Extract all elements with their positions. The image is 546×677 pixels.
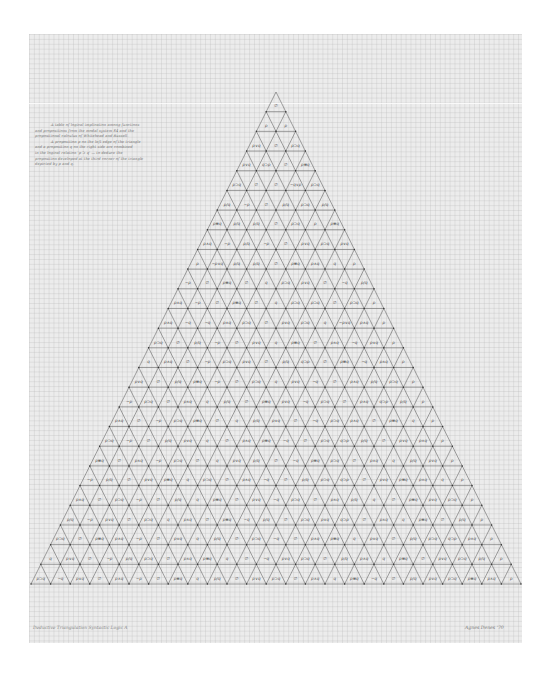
lattice-vertex <box>265 583 267 585</box>
lattice-vertex <box>461 583 463 585</box>
lattice-vertex <box>334 445 336 447</box>
cell-label: p≡q <box>231 300 241 305</box>
cell-label: p⊃q <box>329 458 339 463</box>
cell-label: p/q <box>409 576 417 581</box>
cell-label: ∅ <box>392 576 396 581</box>
cell-label: ∅ <box>127 517 131 522</box>
lattice-vertex <box>265 111 267 113</box>
cell-label: p <box>372 300 376 305</box>
lattice-vertex <box>461 465 463 467</box>
lattice-vertex <box>363 268 365 270</box>
cell-label: p∧q <box>241 477 251 482</box>
lattice-vertex <box>275 249 277 251</box>
lattice-vertex <box>354 485 356 487</box>
lattice-vertex <box>216 485 218 487</box>
cell-label: q⊃p <box>301 359 310 364</box>
cell-label: p/q <box>282 359 290 364</box>
cell-label: p≡q <box>300 162 310 167</box>
cell-label: p∧q <box>359 320 369 325</box>
cell-label: p∨q <box>320 517 330 522</box>
lattice-vertex <box>177 288 179 290</box>
lattice-vertex <box>314 485 316 487</box>
lattice-vertex <box>109 426 111 428</box>
lattice-vertex <box>383 544 385 546</box>
cell-label: p∨q <box>369 340 379 345</box>
cell-label: p⊃q <box>290 300 300 305</box>
lattice-vertex <box>452 564 454 566</box>
cell-label: ∅ <box>255 182 259 187</box>
lattice-vertex <box>285 583 287 585</box>
lattice-vertex <box>334 327 336 329</box>
cell-label: p/q <box>223 202 231 207</box>
lattice-line <box>139 368 247 584</box>
lattice-vertex <box>393 327 395 329</box>
lattice-vertex <box>118 564 120 566</box>
lattice-vertex <box>344 229 346 231</box>
lattice-vertex <box>99 445 101 447</box>
cell-label: ~q <box>263 477 269 482</box>
cell-label: ∅ <box>294 418 298 423</box>
lattice-vertex <box>305 308 307 310</box>
cell-label: p/q <box>252 458 260 463</box>
cell-label: ~q <box>204 320 210 325</box>
lattice-vertex <box>79 564 81 566</box>
lattice-vertex <box>207 386 209 388</box>
lattice-vertex <box>236 406 238 408</box>
lattice-vertex <box>314 288 316 290</box>
lattice-vertex <box>226 583 228 585</box>
cell-label: p/q <box>252 261 260 266</box>
cell-label: p∨q <box>251 143 261 148</box>
lattice-vertex <box>383 426 385 428</box>
lattice-vertex <box>393 485 395 487</box>
cell-label: p∧q <box>369 458 379 463</box>
cell-label: ~p <box>224 241 230 246</box>
lattice-vertex <box>344 308 346 310</box>
lattice-vertex <box>422 426 424 428</box>
cell-label: ∅ <box>304 438 308 443</box>
lattice-line <box>217 210 403 584</box>
lattice-vertex <box>246 583 248 585</box>
lattice-vertex <box>314 406 316 408</box>
cell-label: p <box>421 399 425 404</box>
lattice-vertex <box>167 544 169 546</box>
lattice-vertex <box>354 367 356 369</box>
cell-label: p/q <box>301 477 309 482</box>
cell-label: ∅ <box>323 556 327 561</box>
lattice-vertex <box>501 544 503 546</box>
cell-label: ∅ <box>235 536 239 541</box>
lattice-vertex <box>187 386 189 388</box>
cell-label: p≡q <box>467 576 477 581</box>
cell-label: ∅ <box>166 399 170 404</box>
lattice-vertex <box>481 544 483 546</box>
cell-label: ∅ <box>215 418 219 423</box>
lattice-vertex <box>373 406 375 408</box>
lattice-vertex <box>216 288 218 290</box>
lattice-vertex <box>256 327 258 329</box>
cell-label: ∅ <box>264 202 268 207</box>
cell-label: p/q <box>399 399 407 404</box>
cell-label: p⊃q <box>202 477 212 482</box>
cell-label: p/q <box>350 497 358 502</box>
cell-label: ∅ <box>186 359 190 364</box>
lattice-vertex <box>363 583 365 585</box>
lattice-vertex <box>246 465 248 467</box>
cell-label: q <box>333 261 336 266</box>
cell-label: p∧q <box>202 241 212 246</box>
lattice-vertex <box>393 406 395 408</box>
cell-label: p⊃q <box>104 438 114 443</box>
lattice-vertex <box>412 485 414 487</box>
cell-label: p∧q <box>349 379 359 384</box>
cell-label: ∅ <box>225 477 229 482</box>
cell-label: ∅ <box>206 280 210 285</box>
cell-label: ∅ <box>176 340 180 345</box>
cell-label: ~q <box>263 556 269 561</box>
cell-label: p⊃q <box>173 418 183 423</box>
cell-label: ~q <box>361 359 367 364</box>
cell-label: q <box>235 418 238 423</box>
lattice-vertex <box>50 583 52 585</box>
lattice-vertex <box>226 347 228 349</box>
lattice-vertex <box>403 465 405 467</box>
lattice-vertex <box>187 308 189 310</box>
cell-label: ∅ <box>323 359 327 364</box>
lattice-vertex <box>324 426 326 428</box>
